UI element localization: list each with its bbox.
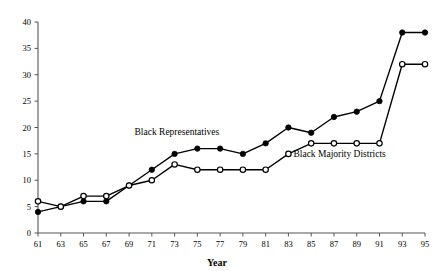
- data-point-open: [400, 61, 405, 66]
- data-point-filled: [263, 141, 268, 146]
- data-point-filled: [217, 146, 222, 151]
- x-axis-tick-label: 67: [102, 239, 111, 249]
- data-point-open: [195, 167, 200, 172]
- data-point-filled: [195, 146, 200, 151]
- x-axis-tick-label: 73: [170, 239, 179, 249]
- data-point-filled: [354, 109, 359, 114]
- data-point-open: [286, 151, 291, 156]
- series-line: [38, 33, 425, 212]
- y-axis-tick-label: 5: [27, 202, 31, 212]
- data-point-open: [149, 178, 154, 183]
- data-point-filled: [308, 130, 313, 135]
- data-point-filled: [422, 30, 427, 35]
- x-axis-tick-label: 95: [421, 239, 430, 249]
- data-point-filled: [172, 151, 177, 156]
- x-axis-tick-label: 81: [261, 239, 270, 249]
- y-axis-tick-label: 10: [23, 175, 32, 185]
- data-point-filled: [400, 30, 405, 35]
- y-axis-tick-label: 20: [23, 123, 32, 133]
- x-axis-tick-label: 71: [148, 239, 157, 249]
- data-point-open: [240, 167, 245, 172]
- x-axis-tick-label: 61: [34, 239, 43, 249]
- data-point-open: [81, 193, 86, 198]
- x-axis-tick-label: 93: [398, 239, 407, 249]
- x-axis-tick-label: 79: [239, 239, 248, 249]
- y-axis-tick-label: 0: [27, 228, 31, 238]
- data-point-filled: [377, 98, 382, 103]
- y-axis-tick-label: 25: [23, 96, 32, 106]
- data-point-filled: [35, 209, 40, 214]
- data-point-filled: [81, 199, 86, 204]
- x-axis-tick-label: 87: [330, 239, 339, 249]
- x-axis-tick-label: 91: [375, 239, 384, 249]
- data-point-open: [126, 183, 131, 188]
- series-line: [38, 64, 425, 206]
- x-axis-tick-label: 65: [79, 239, 88, 249]
- x-axis-tick-label: 63: [57, 239, 66, 249]
- x-axis-tick-label: 75: [193, 239, 202, 249]
- x-axis: 616365676971737577798183858789919395: [34, 233, 430, 249]
- data-point-open: [354, 141, 359, 146]
- x-axis-tick-label: 69: [125, 239, 134, 249]
- data-point-filled: [104, 199, 109, 204]
- x-axis-tick-label: 83: [284, 239, 293, 249]
- x-axis-title: Year: [207, 257, 228, 268]
- data-point-filled: [149, 167, 154, 172]
- data-point-open: [104, 193, 109, 198]
- y-axis-tick-label: 35: [23, 43, 32, 53]
- chart-container: 0510152025303540 61636567697173757779818…: [0, 0, 435, 271]
- data-point-open: [308, 141, 313, 146]
- data-point-open: [377, 141, 382, 146]
- x-axis-tick-label: 77: [216, 239, 225, 249]
- data-point-filled: [286, 125, 291, 130]
- data-point-open: [331, 141, 336, 146]
- data-point-open: [263, 167, 268, 172]
- data-point-open: [217, 167, 222, 172]
- y-axis-tick-label: 30: [23, 70, 32, 80]
- x-axis-tick-label: 89: [352, 239, 361, 249]
- y-axis-tick-label: 40: [23, 17, 32, 27]
- data-point-filled: [240, 151, 245, 156]
- data-point-open: [172, 162, 177, 167]
- label-black-representatives: Black Representatives: [135, 127, 220, 137]
- y-axis-tick-label: 15: [23, 149, 32, 159]
- label-black-majority-districts: Black Majority Districts: [293, 149, 386, 159]
- data-point-open: [422, 61, 427, 66]
- data-point-open: [35, 199, 40, 204]
- series-black-majority-districts: [35, 61, 427, 209]
- series-black-representatives: [35, 30, 427, 215]
- data-point-filled: [331, 114, 336, 119]
- data-point-open: [58, 204, 63, 209]
- y-axis: 0510152025303540: [23, 17, 39, 238]
- x-axis-tick-label: 85: [307, 239, 316, 249]
- line-chart: 0510152025303540 61636567697173757779818…: [0, 0, 435, 271]
- data-series-group: [35, 30, 427, 215]
